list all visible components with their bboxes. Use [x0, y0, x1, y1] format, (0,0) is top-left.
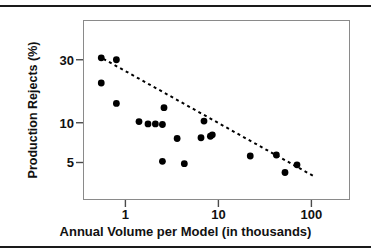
x-tick-label: 10 — [211, 207, 225, 222]
x-axis-title: Annual Volume per Model (in thousands) — [0, 224, 371, 239]
bottom-divider-rule — [0, 246, 371, 248]
plot-area-frame — [83, 20, 350, 200]
y-tick-label: 10 — [48, 115, 74, 130]
y-axis-tick-marks — [76, 60, 83, 163]
x-tick-label: 100 — [301, 207, 323, 222]
top-divider-rule — [0, 5, 371, 7]
figure-container: 51030 110100 Production Rejects (%) Annu… — [0, 0, 371, 252]
x-axis-tick-marks — [125, 200, 311, 207]
x-tick-label: 1 — [122, 207, 129, 222]
y-tick-label: 30 — [48, 52, 74, 67]
y-axis-title: Production Rejects (%) — [26, 42, 40, 179]
y-tick-label: 5 — [48, 155, 74, 170]
